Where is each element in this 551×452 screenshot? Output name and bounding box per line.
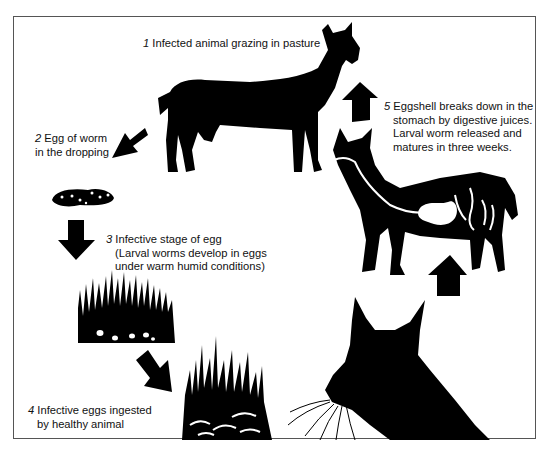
step-number: 5 [384,100,390,112]
step-text: Infected animal grazing in pasture [152,37,320,49]
grass-with-ingested-eggs [182,336,272,440]
step-text: stomach by digestive juices. [384,114,533,128]
arrow-head-to-cutaway [428,255,467,296]
step-text: in the dropping [35,146,109,158]
step-text: Infective eggs ingested [37,404,151,416]
grass-with-eggs [78,270,175,343]
step-2-caption: 2 Egg of worm in the dropping [35,132,109,159]
step-3-caption: 3 Infective stage of egg (Larval worms d… [106,233,267,274]
step-1-caption: 1 Infected animal grazing in pasture [143,37,320,51]
life-cycle-illustration [0,0,551,452]
step-text: Infective stage of egg [115,233,221,245]
step-text: (Larval worms develop in eggs [106,247,267,261]
arrow-goat-to-dropping [112,128,148,158]
arrow-cutaway-to-infected-goat [342,82,378,122]
step-5-caption: 5 Eggshell breaks down in the stomach by… [384,100,533,154]
arrow-dropping-to-grass [58,220,95,260]
step-number: 3 [106,233,112,245]
grazing-goat-head [288,297,490,440]
step-text: matures in three weeks. [384,141,533,155]
step-text: Egg of worm [44,132,107,144]
step-text: Eggshell breaks down in the [393,100,533,112]
arrow-grass-to-ingestion [136,350,172,392]
step-text: Larval worm released and [384,127,533,141]
dropping-with-eggs [52,189,114,206]
step-number: 2 [35,132,41,144]
step-text: under warm humid conditions) [106,260,267,274]
step-number: 4 [28,404,34,416]
step-text: by healthy animal [28,418,152,432]
step-number: 1 [143,37,149,49]
step-4-caption: 4 Infective eggs ingested by healthy ani… [28,404,152,431]
